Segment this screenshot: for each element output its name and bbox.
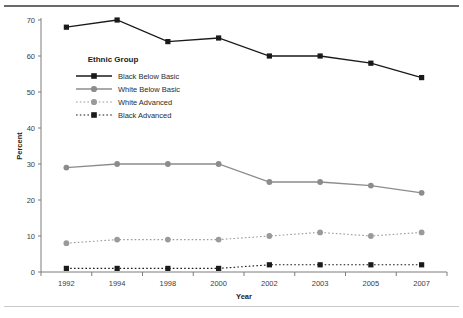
x-axis-tick-label: 2000 [210,279,227,288]
series-marker [317,230,323,236]
series-marker [368,262,373,267]
series-marker [165,161,171,167]
series-marker [115,266,120,271]
series-line [66,164,421,193]
series-marker [114,161,120,167]
series-marker [368,233,374,239]
y-axis-ticks: 010203040506070 [27,16,41,277]
chart-series [64,262,424,271]
legend-item-label: White Advanced [118,98,172,107]
series-marker [318,262,323,267]
x-axis-tick-label: 2003 [312,279,329,288]
y-axis-tick-label: 70 [27,16,35,25]
x-axis-tick-label: 2005 [363,279,380,288]
series-marker [266,233,272,239]
x-axis-tick-label: 1992 [58,279,75,288]
series-marker [63,240,69,246]
y-axis-title: Percent [15,132,24,160]
series-marker [368,61,373,66]
bottom-divider [4,306,459,307]
series-marker [419,75,424,80]
series-marker [216,266,221,271]
series-marker [267,262,272,267]
x-axis-title: Year [236,292,252,301]
legend-sample-marker [91,73,97,79]
y-axis-tick-label: 60 [27,52,35,61]
chart-figure: 010203040506070 199219941998200020022003… [0,0,463,318]
top-divider [4,5,459,7]
x-axis-tick-label: 1994 [109,279,126,288]
series-marker [317,179,323,185]
series-marker [216,161,222,167]
series-marker [64,25,69,30]
chart-series [63,230,424,247]
series-marker [64,266,69,271]
series-marker [115,17,120,22]
y-axis-tick-label: 50 [27,88,35,97]
series-marker [419,262,424,267]
legend-sample-marker [91,86,97,92]
series-marker [318,53,323,58]
series-marker [165,39,170,44]
line-chart-plot: 010203040506070 199219941998200020022003… [0,0,463,318]
y-axis-tick-label: 30 [27,160,35,169]
series-marker [419,190,425,196]
series-marker [216,35,221,40]
y-axis-tick-label: 0 [31,268,35,277]
x-axis-ticks: 19921994199820002002200320052007 [41,272,447,288]
legend-sample-marker [91,112,97,118]
series-marker [267,53,272,58]
y-axis-tick-label: 40 [27,124,35,133]
series-marker [165,266,170,271]
legend-item-label: Black Advanced [118,111,171,120]
y-axis-tick-label: 10 [27,232,35,241]
x-axis-tick-label: 2002 [261,279,278,288]
legend-item-label: White Below Basic [118,85,180,94]
chart-series [63,161,424,196]
series-marker [368,183,374,189]
series-marker [114,237,120,243]
x-axis-tick-label: 1998 [160,279,177,288]
legend-title: Ethnic Group [88,55,139,64]
series-line [66,232,421,243]
chart-series [64,17,424,80]
series-marker [63,165,69,171]
series-marker [216,237,222,243]
series-marker [165,237,171,243]
y-axis-tick-label: 20 [27,196,35,205]
chart-legend: Ethnic Group Black Below BasicWhite Belo… [76,55,180,120]
legend-item-label: Black Below Basic [118,72,180,81]
series-line [66,20,421,78]
legend-sample-marker [91,99,97,105]
series-marker [419,230,425,236]
series-marker [266,179,272,185]
x-axis-tick-label: 2007 [413,279,430,288]
